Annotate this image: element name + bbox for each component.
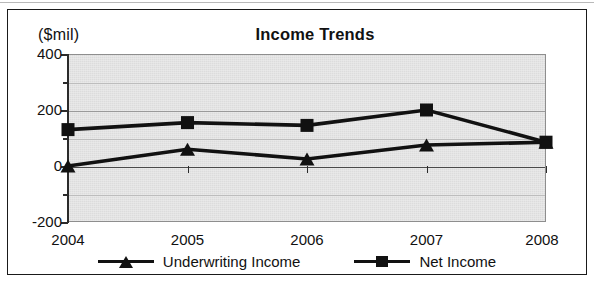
legend-label-net-income: Net Income <box>419 253 496 270</box>
net-income-point <box>181 116 194 129</box>
income-trends-chart-figure: ($mil) Income Trends 400 200 0 -200 2004… <box>0 0 594 282</box>
legend-item-underwriting-income: Underwriting Income <box>98 253 301 270</box>
data-series-layer <box>0 0 594 282</box>
legend-label-underwriting-income: Underwriting Income <box>163 253 301 270</box>
net-income-point <box>420 104 433 117</box>
legend-item-net-income: Net Income <box>354 253 496 270</box>
square-marker-icon <box>354 253 410 269</box>
triangle-marker-icon <box>98 253 154 269</box>
chart-legend: Underwriting Income Net Income <box>0 249 594 273</box>
net-income-point <box>301 119 314 132</box>
net-income-point <box>62 123 75 136</box>
underwriting-income-markers <box>61 136 554 173</box>
